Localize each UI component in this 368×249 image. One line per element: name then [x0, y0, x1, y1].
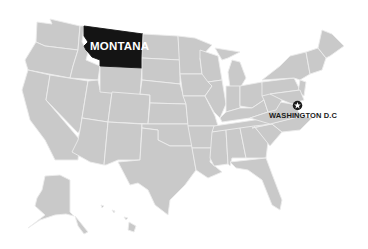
- state-hawaii[interactable]: [101, 205, 136, 232]
- state-colorado[interactable]: [108, 92, 150, 124]
- state-new-york[interactable]: [262, 52, 310, 80]
- state-new-mexico[interactable]: [104, 122, 142, 165]
- star-circle-icon: [292, 100, 303, 111]
- state-florida[interactable]: [230, 158, 282, 210]
- state-kansas[interactable]: [148, 103, 188, 124]
- capital-label: WASHINGTON D.C: [269, 111, 337, 120]
- state-indiana[interactable]: [226, 86, 240, 112]
- state-alaska[interactable]: [28, 175, 88, 234]
- state-mississippi[interactable]: [210, 130, 228, 166]
- state-south-dakota[interactable]: [142, 58, 180, 84]
- state-wyoming[interactable]: [100, 66, 142, 96]
- montana-label: MONTANA: [90, 40, 149, 52]
- state-arkansas[interactable]: [188, 126, 214, 148]
- us-map: [0, 0, 368, 249]
